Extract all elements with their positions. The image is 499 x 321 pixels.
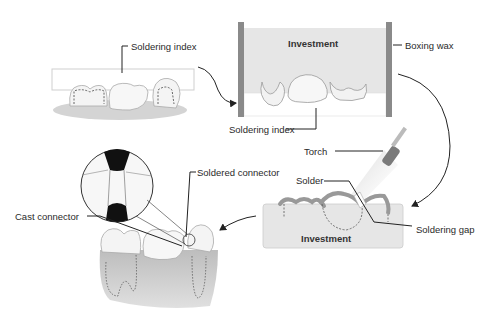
- panel-soldering: Torch Investment Solder Soldering gap: [263, 127, 475, 248]
- arrow-step-2: [398, 74, 450, 206]
- label-cast-connector: Cast connector: [15, 211, 79, 222]
- pontic: [109, 83, 148, 110]
- arrow-step-1: [198, 67, 236, 103]
- label-boxing-wax: Boxing wax: [405, 40, 454, 51]
- label-investment-bottom: Investment: [301, 233, 352, 244]
- panel-investment-box: Investment Soldering index Boxing wax: [229, 22, 454, 135]
- label-soldering-index-bottom: Soldering index: [229, 124, 295, 135]
- label-solder: Solder: [296, 175, 323, 186]
- abutment-crown-left: [70, 85, 107, 106]
- torch-tip: [391, 127, 407, 147]
- label-soldering-index-top: Soldering index: [131, 41, 197, 52]
- boxing-wax-right: [386, 22, 392, 117]
- soldering-diagram: Soldering index Investment Soldering ind…: [0, 0, 499, 321]
- abutment-crown-right: [153, 78, 180, 108]
- label-torch: Torch: [304, 146, 327, 157]
- panel-bridge-with-index: Soldering index: [52, 41, 197, 120]
- panel-finished-bridge: Soldered connector Cast connector: [15, 149, 279, 308]
- arrow-step-3: [220, 216, 256, 230]
- label-investment-top: Investment: [288, 38, 339, 49]
- finished-crown-right: [188, 225, 214, 252]
- finished-crown-left: [101, 229, 141, 254]
- label-soldered-connector: Soldered connector: [197, 167, 279, 178]
- boxing-wax-left: [238, 22, 244, 117]
- label-soldering-gap: Soldering gap: [416, 224, 475, 235]
